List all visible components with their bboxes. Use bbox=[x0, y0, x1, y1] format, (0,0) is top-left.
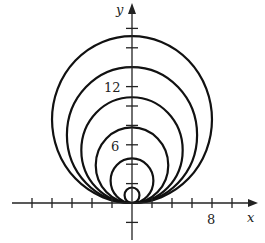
chart: x y 8 6 12 bbox=[0, 0, 265, 243]
x-tick-label-8: 8 bbox=[207, 212, 215, 227]
x-axis-arrow-icon bbox=[248, 199, 258, 207]
y-tick-label-6: 6 bbox=[111, 139, 119, 154]
y-axis bbox=[126, 3, 138, 240]
y-axis-arrow-icon bbox=[128, 3, 136, 14]
x-axis bbox=[12, 198, 258, 208]
x-axis-label: x bbox=[247, 210, 255, 225]
y-axis-label: y bbox=[115, 2, 124, 17]
y-tick-label-12: 12 bbox=[104, 80, 121, 95]
